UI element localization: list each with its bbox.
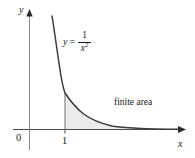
x-axis-arrowhead-icon xyxy=(178,126,186,133)
equation-lhs: y xyxy=(63,37,67,47)
equation-denominator: x2 xyxy=(79,43,90,54)
figure-container: y x 0 1 finite area y = 1 x2 xyxy=(0,0,195,158)
x-tick-label-1: 1 xyxy=(62,136,67,147)
finite-area-annotation: finite area xyxy=(114,98,152,108)
origin-label: 0 xyxy=(16,133,21,144)
curve-equation-label: y = 1 x2 xyxy=(63,31,91,53)
y-axis-label: y xyxy=(19,5,23,15)
plot-canvas xyxy=(0,0,195,158)
equation-operator: = xyxy=(69,37,75,47)
x-axis-label: x xyxy=(178,139,182,149)
equation-denominator-exponent: 2 xyxy=(85,40,88,47)
y-axis-arrowhead-icon xyxy=(26,9,32,17)
equation-fraction: 1 x2 xyxy=(78,31,91,53)
